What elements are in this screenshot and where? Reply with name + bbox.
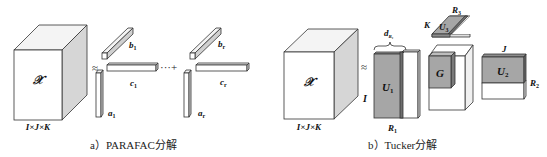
parafac-panel: 𝒳 I×J×K ≈ b1 c1 a1 ···+ — [14, 25, 249, 151]
u3-factor-matrix: K R3 U3 — [423, 5, 470, 37]
parafac-component-r: br cr ar — [184, 28, 249, 119]
core-label: G — [436, 67, 444, 79]
br-label: br — [218, 39, 226, 50]
tucker-approx-symbol: ≈ — [361, 61, 367, 73]
u3-top-label: R3 — [451, 5, 461, 16]
parafac-sum-symbol: ···+ — [160, 61, 177, 73]
u1-factor-matrix: I dR₁ U1 R1 — [362, 28, 420, 134]
u1-brace-label: dR₁ — [384, 28, 394, 39]
tucker-tensor-cube: 𝒳 I×J×K — [284, 29, 358, 132]
b1-label: b1 — [129, 40, 137, 51]
tensor-decomposition-diagram: 𝒳 I×J×K ≈ b1 c1 a1 ···+ — [0, 0, 547, 157]
parafac-caption: a）PARAFAC分解 — [90, 138, 177, 151]
u1-col-label: R1 — [387, 123, 397, 134]
u3-side-label: K — [423, 20, 431, 30]
tucker-panel: 𝒳 I×J×K ≈ I dR₁ U1 R1 K R3 — [284, 5, 539, 151]
parafac-component-1: b1 c1 a1 — [96, 28, 158, 119]
u1-row-label: I — [362, 93, 368, 104]
u2-top-label: J — [501, 44, 507, 54]
parafac-tensor-dims: I×J×K — [25, 122, 51, 132]
u1-brace — [374, 42, 406, 50]
ar-label: ar — [198, 108, 206, 119]
a1-label: a1 — [108, 108, 116, 119]
c1-label: c1 — [130, 78, 137, 89]
u2-factor-matrix: J U2 R2 — [482, 44, 539, 99]
core-tensor-g: G — [429, 45, 473, 110]
tucker-tensor-dims: I×J×K — [296, 122, 322, 132]
tucker-caption: b）Tucker分解 — [368, 138, 437, 151]
parafac-tensor-cube: 𝒳 I×J×K — [14, 25, 87, 132]
cr-label: cr — [220, 77, 227, 88]
u2-side-label: R2 — [529, 78, 539, 89]
